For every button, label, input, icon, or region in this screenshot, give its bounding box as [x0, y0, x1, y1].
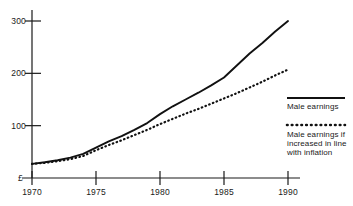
x-tick-label-1975: 1975 — [76, 188, 116, 197]
y-tick-marks — [25, 21, 41, 126]
legend-label-male-earnings-inflation: Male earnings if increased in line with … — [287, 130, 353, 158]
x-tick-label-1985: 1985 — [204, 188, 244, 197]
y-tick-label-100: 100 — [2, 122, 26, 131]
currency-axis-label: £ — [18, 174, 23, 183]
series-male-earnings — [32, 21, 288, 164]
legend-label-male-earnings: Male earnings — [287, 102, 353, 111]
y-tick-label-200: 200 — [2, 69, 26, 78]
line-chart: £ 100 200 300 1970 1975 1980 1985 1990 M… — [0, 0, 353, 206]
y-tick-label-300: 300 — [2, 17, 26, 26]
series-male-earnings-inflation — [32, 70, 288, 164]
x-tick-label-1980: 1980 — [140, 188, 180, 197]
x-tick-label-1970: 1970 — [12, 188, 52, 197]
x-tick-label-1990: 1990 — [268, 188, 308, 197]
